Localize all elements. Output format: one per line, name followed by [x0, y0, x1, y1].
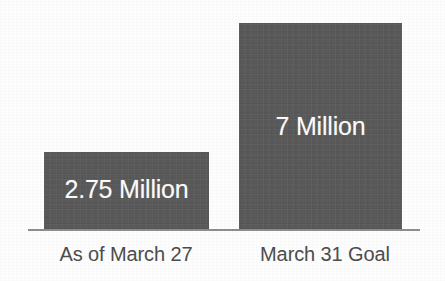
- bar-chart: 2.75 Million 7 Million As of March 27 Ma…: [0, 0, 445, 281]
- plot-area: 2.75 Million 7 Million As of March 27 Ma…: [0, 0, 445, 281]
- bar-value-label-right: 7 Million: [239, 112, 402, 141]
- x-axis-baseline: [28, 229, 420, 231]
- category-label-left: As of March 27: [26, 243, 226, 266]
- bar-value-label-left: 2.75 Million: [44, 175, 209, 204]
- category-label-right: March 31 Goal: [232, 243, 418, 266]
